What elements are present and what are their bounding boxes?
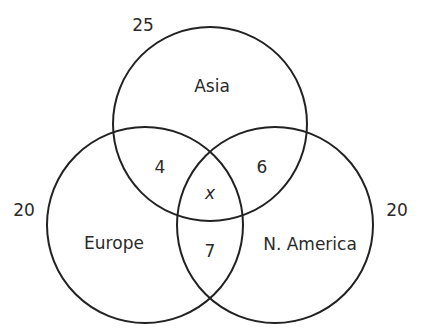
namerica-circle	[177, 127, 373, 323]
europe-label: Europe	[84, 235, 144, 252]
region-asia-europe: 4	[155, 159, 166, 176]
namerica-label: N. America	[263, 236, 357, 253]
europe-circle	[47, 127, 243, 323]
venn-circles	[0, 0, 422, 332]
region-all-three: x	[205, 185, 215, 202]
asia-label: Asia	[194, 78, 230, 95]
region-europe-namerica: 7	[205, 243, 216, 260]
europe-total: 20	[13, 202, 35, 219]
region-asia-namerica: 6	[257, 159, 268, 176]
asia-total: 25	[132, 17, 154, 34]
venn-diagram: 25 20 20 Asia Europe N. America 4 6 x 7	[0, 0, 422, 332]
namerica-total: 20	[386, 202, 408, 219]
